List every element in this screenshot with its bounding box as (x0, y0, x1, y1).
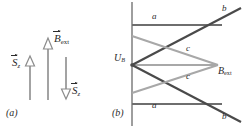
label-spin-right: Sz (72, 85, 80, 97)
label-level-c-bottom: c (186, 72, 190, 81)
caption-panel-a: (a) (6, 108, 18, 118)
origin-point (130, 63, 134, 67)
label-level-c-top: c (186, 44, 190, 53)
arrow-spin-down-right (62, 57, 71, 99)
label-level-b-bottom: b (222, 112, 227, 121)
label-y-axis-energy: UB (114, 53, 125, 64)
panel-b-energy-diagram (110, 0, 248, 130)
label-level-a-bottom: a (152, 101, 157, 110)
arrow-b-ext (44, 38, 53, 100)
level-c-top (132, 36, 218, 65)
label-b-ext: Bext (54, 33, 69, 45)
panel-b: UB a a b b c c Bext (b) (110, 0, 248, 130)
label-level-a-top: a (152, 12, 157, 21)
level-b-rising (132, 8, 241, 65)
label-spin-left: Sz (12, 57, 20, 69)
label-level-b-top: b (222, 4, 227, 13)
caption-panel-b: (b) (112, 108, 124, 118)
arrow-spin-up-left (26, 56, 35, 100)
panel-a: Sz Bext Sz (a) (0, 0, 110, 130)
label-x-axis-b-ext: Bext (218, 66, 232, 77)
level-c-bottom (132, 65, 218, 93)
physics-figure: Sz Bext Sz (a) UB a (0, 0, 248, 130)
